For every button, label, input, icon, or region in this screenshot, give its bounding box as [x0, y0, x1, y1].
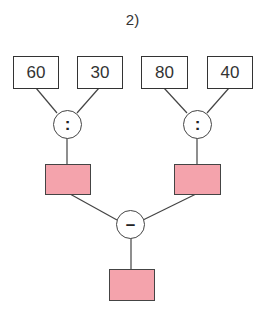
- input-box-60: 60: [13, 56, 59, 89]
- input-box-30: 30: [77, 56, 123, 89]
- result-box-left[interactable]: [45, 164, 91, 195]
- result-box-right[interactable]: [174, 164, 221, 195]
- final-result-box[interactable]: [109, 269, 155, 301]
- input-box-80: 80: [141, 56, 188, 89]
- divide-operator-right: :: [183, 110, 212, 139]
- divide-operator-left: :: [53, 110, 82, 139]
- input-box-40: 40: [207, 56, 253, 89]
- minus-operator: –: [116, 210, 145, 239]
